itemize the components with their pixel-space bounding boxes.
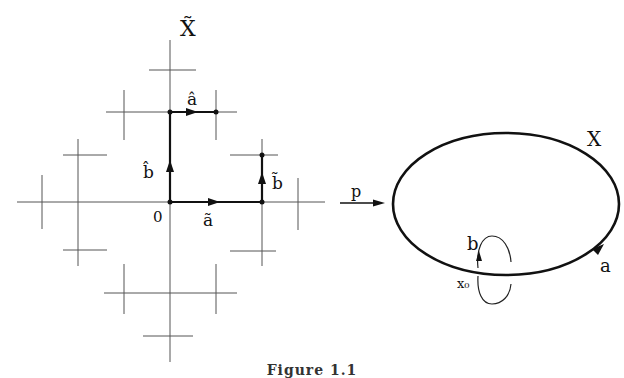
vertex xyxy=(168,110,173,115)
cover-tree: X̃ â b̂ ã b̃ 0 xyxy=(17,16,325,362)
vertex xyxy=(260,153,265,158)
label-a-hat: â xyxy=(187,89,197,109)
arrow-up-icon xyxy=(166,160,174,172)
label-b: b xyxy=(467,233,479,254)
label-origin: 0 xyxy=(153,208,163,226)
vertex-origin xyxy=(168,200,173,205)
arrow-up-icon xyxy=(258,172,266,184)
cover-title: X̃ xyxy=(180,16,196,41)
label-b-tilde: b̃ xyxy=(271,172,283,193)
map-label: p xyxy=(351,182,361,201)
figure-caption: Figure 1.1 xyxy=(0,362,624,378)
loop-a-ellipse xyxy=(393,133,619,275)
vertex xyxy=(260,200,265,205)
arrow-right-icon xyxy=(208,198,220,206)
space-title: X xyxy=(587,127,602,151)
arrow-right-icon xyxy=(186,108,198,116)
loop-b xyxy=(478,236,511,268)
loop-b-lower xyxy=(478,276,511,304)
label-a-tilde: ã xyxy=(203,210,213,230)
arrow-right-icon xyxy=(373,200,385,207)
label-basepoint: x₀ xyxy=(457,276,470,291)
vertex xyxy=(214,110,219,115)
label-b-hat: b̂ xyxy=(143,161,154,182)
covering-map: p xyxy=(340,182,385,207)
label-a: a xyxy=(600,255,611,276)
base-space: X a b x₀ xyxy=(393,127,619,304)
